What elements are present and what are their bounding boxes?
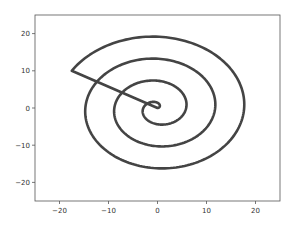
- x-tick-label: 20: [251, 207, 260, 215]
- y-tick-label: 10: [21, 67, 30, 75]
- y-tick-label: −10: [15, 142, 30, 150]
- y-tick-label: −20: [15, 179, 30, 187]
- y-tick-label: 20: [21, 30, 30, 38]
- x-tick-label: −20: [52, 207, 67, 215]
- x-tick-label: 10: [202, 207, 211, 215]
- x-tick-label: −10: [101, 207, 116, 215]
- y-tick-label: 0: [26, 105, 30, 113]
- x-tick-label: 0: [155, 207, 159, 215]
- chart-canvas: −20−1001020 −20−1001020: [0, 0, 295, 226]
